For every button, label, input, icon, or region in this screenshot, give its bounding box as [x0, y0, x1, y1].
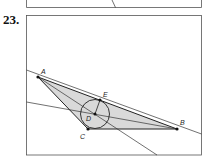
label-e: E	[103, 91, 108, 98]
point-b	[175, 127, 178, 130]
geometry-figure: A B C D E	[0, 0, 208, 160]
label-d: D	[86, 115, 91, 122]
label-a: A	[40, 68, 46, 75]
point-d	[94, 113, 97, 116]
label-b: B	[180, 119, 185, 126]
label-c: C	[80, 133, 86, 140]
previous-figure-frame	[27, 0, 202, 8]
point-a	[36, 75, 39, 78]
point-c	[86, 127, 89, 130]
point-e	[99, 99, 102, 102]
